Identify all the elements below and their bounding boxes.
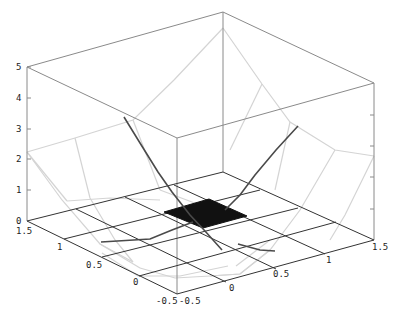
y-label-0: 0 [133,277,138,287]
surface-front-curves [101,117,298,251]
z-label-2: 2 [16,154,21,164]
x-label-0: 0 [229,283,234,293]
surface-plot: 5 4 3 2 1 0 1.5 1 0.5 0 -0.5 -0.5 0 0.5 … [0,0,397,318]
base-grid [27,172,374,294]
y-label-1.5: 1.5 [16,226,32,236]
z-label-0: 0 [16,216,21,226]
x-label-0.5: 0.5 [273,269,289,279]
z-label-3: 3 [16,124,21,134]
surface-back-mesh [27,28,374,278]
z-label-1: 1 [16,185,21,195]
z-label-5: 5 [16,62,21,72]
x-label--0.5: -0.5 [179,296,201,306]
y-label-1: 1 [57,242,62,252]
z-axis-ticks [27,67,374,209]
y-label--0.5: -0.5 [156,296,178,306]
x-label-1.5: 1.5 [372,242,388,252]
z-label-4: 4 [16,93,21,103]
z-axis-labels: 5 4 3 2 1 0 [16,62,21,226]
x-label-1: 1 [326,255,331,265]
y-label-0.5: 0.5 [86,260,102,270]
